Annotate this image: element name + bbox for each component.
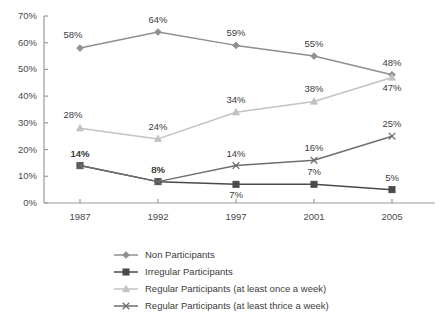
data-point-label: 64% [141,14,175,25]
data-point-label: 5% [375,172,409,183]
data-point-label: 48% [375,57,409,68]
square-marker [113,265,139,279]
data-point-label: 25% [375,118,409,129]
data-point-label: 55% [297,38,331,49]
x-axis-tick-label: 1987 [50,211,110,222]
data-point-label: 7% [219,189,253,200]
data-point-label: 14% [63,148,97,159]
data-point-label: 8% [141,164,175,175]
data-point-label: 58% [56,29,90,40]
legend-item[interactable]: Irregular Participants [113,263,433,280]
legend-item[interactable]: Non Participants [113,246,433,263]
data-point-label: 28% [56,109,90,120]
y-axis-tick-label: 20% [0,144,37,155]
chart-legend: Non ParticipantsIrregular ParticipantsRe… [113,246,433,314]
legend-item-label: Irregular Participants [145,265,233,279]
x-axis-tick-label: 2001 [284,211,344,222]
data-point-label: 14% [219,148,253,159]
y-axis-tick-label: 30% [0,117,37,128]
y-axis-tick-label: 60% [0,37,37,48]
legend-item-label: Non Participants [145,248,215,262]
legend-item-label: Regular Participants (at least thrice a … [145,299,329,313]
y-axis-tick-label: 40% [0,90,37,101]
data-point-label: 34% [219,94,253,105]
triangle-marker [113,282,139,296]
data-point-label: 16% [297,142,331,153]
series-lines [77,29,396,193]
line-chart: 0%10%20%30%40%50%60%70% 1987199219972001… [0,0,444,320]
x-axis-tick-label: 2005 [362,211,422,222]
x-axis-tick-label: 1992 [128,211,188,222]
legend-item[interactable]: Regular Participants (at least once a we… [113,280,433,297]
data-point-label: 24% [141,121,175,132]
data-point-label: 47% [375,82,409,93]
legend-item-label: Regular Participants (at least once a we… [145,282,326,296]
y-axis-tick-label: 10% [0,170,37,181]
x-marker [113,299,139,313]
diamond-marker [113,248,139,262]
data-point-label: 7% [297,166,331,177]
data-point-label: 38% [297,83,331,94]
y-axis-tick-label: 50% [0,63,37,74]
x-axis-tick-label: 1997 [206,211,266,222]
legend-item[interactable]: Regular Participants (at least thrice a … [113,297,433,314]
data-point-label: 59% [219,27,253,38]
y-axis-tick-label: 0% [0,197,37,208]
y-axis-tick-label: 70% [0,10,37,21]
